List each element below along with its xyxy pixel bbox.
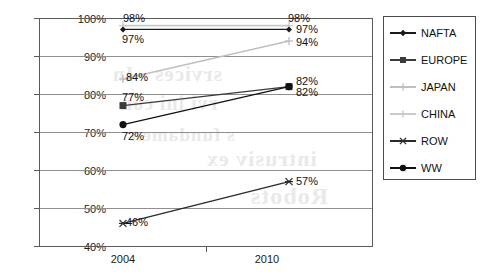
legend-label-china: CHINA	[421, 108, 455, 120]
legend-label-ww: WW	[421, 162, 442, 174]
legend-item-china[interactable]: CHINA	[390, 106, 455, 122]
plot-area	[39, 18, 373, 247]
legend-marker-cross-icon	[390, 107, 416, 121]
x-axis-label-2010: 2010	[237, 253, 297, 265]
legend-label-europe: EUROPE	[421, 54, 467, 66]
x-tick-mark-mid	[206, 247, 207, 252]
chart-legend: NAFTA EUROPE JAPAN CHINA	[383, 16, 476, 180]
legend-marker-square-icon	[390, 53, 416, 67]
point-label-row-2010: 57%	[296, 176, 318, 187]
gridline-50	[40, 208, 372, 209]
point-label-europe-2004: 77%	[122, 92, 144, 103]
point-label-china-2004: 98%	[123, 13, 145, 24]
gridline-80	[40, 94, 372, 95]
x-axis-label-2004: 2004	[93, 253, 153, 265]
legend-item-ww[interactable]: WW	[390, 160, 442, 176]
legend-label-nafta: NAFTA	[421, 27, 456, 39]
legend-item-europe[interactable]: EUROPE	[390, 52, 467, 68]
legend-item-japan[interactable]: JAPAN	[390, 79, 456, 95]
gridline-90	[40, 56, 372, 57]
legend-marker-star-icon	[390, 134, 416, 148]
legend-label-row: ROW	[421, 135, 448, 147]
legend-label-japan: JAPAN	[421, 81, 456, 93]
point-label-japan-2010: 94%	[296, 37, 318, 48]
point-label-row-2004: 46%	[126, 217, 148, 228]
point-label-ww-2010: 82%	[296, 87, 318, 98]
point-label-nafta-2010: 97%	[296, 24, 318, 35]
legend-marker-circle-icon	[390, 161, 416, 175]
point-label-nafta-2004: 97%	[122, 34, 144, 45]
chart-canvas: srvices - In rvi ini con s fundamen intr…	[0, 0, 480, 279]
point-label-japan-2004: 84%	[126, 72, 148, 83]
legend-marker-plus-icon	[390, 80, 416, 94]
legend-marker-diamond-icon	[390, 26, 416, 40]
gridline-60	[40, 170, 372, 171]
point-label-ww-2004: 72%	[122, 131, 144, 142]
legend-item-nafta[interactable]: NAFTA	[390, 25, 456, 41]
gridline-70	[40, 132, 372, 133]
legend-item-row[interactable]: ROW	[390, 133, 448, 149]
